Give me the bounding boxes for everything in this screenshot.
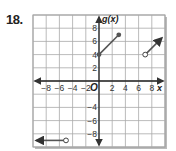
origin-label: O [90,82,98,93]
x-tick-label: −6 [55,83,65,93]
x-tick-label: −8 [41,83,51,93]
y-tick-label: 2 [92,63,97,73]
y-tick-label: 6 [92,36,97,46]
x-tick-label: 6 [136,83,141,93]
closed-endpoint [116,32,121,37]
closed-endpoint [97,52,102,57]
open-endpoint [143,52,148,57]
function-graph: −8−6−4−224688642−4−6−8 g(x) x O [0,0,176,151]
x-tick-label: 2 [110,83,115,93]
y-tick-label: −8 [87,129,97,139]
y-tick-label: −6 [87,116,97,126]
y-tick-label: 8 [92,23,97,33]
x-tick-label: −4 [68,83,78,93]
y-axis-label: g(x) [101,14,119,24]
x-axis-label: x [156,83,163,93]
x-tick-label: 4 [123,83,128,93]
y-tick-label: 4 [92,50,97,60]
x-tick-label: 8 [149,83,154,93]
y-tick-label: −4 [87,102,97,112]
open-endpoint [64,138,69,143]
